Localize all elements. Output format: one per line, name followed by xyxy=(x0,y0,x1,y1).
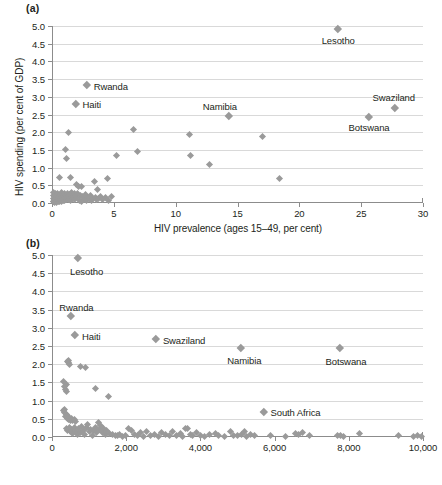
data-point-annotation: Swaziland xyxy=(163,335,205,346)
x-axis-tick-label: 5 xyxy=(111,208,116,219)
x-axis-tick-label: 30 xyxy=(418,208,428,219)
x-axis-tick-label: 10 xyxy=(170,208,180,219)
y-axis-tick-label: 4.0 xyxy=(32,286,45,297)
data-point-labeled xyxy=(391,104,399,112)
gridline xyxy=(52,44,423,45)
y-axis-tick-label: 1.5 xyxy=(32,377,45,388)
y-axis-tick-label: 4.0 xyxy=(32,56,45,67)
gridline xyxy=(52,97,423,98)
x-axis-tick xyxy=(361,203,362,207)
x-axis-tick-label: 0 xyxy=(49,442,54,453)
x-axis-tick-label: 4,000 xyxy=(189,442,212,453)
y-axis-tick-label: 2.0 xyxy=(32,359,45,370)
data-point xyxy=(221,433,228,440)
y-axis-tick-label: 5.0 xyxy=(32,21,45,32)
y-axis-tick-label: 5.0 xyxy=(32,250,45,261)
data-point-annotation: Botswana xyxy=(326,356,367,367)
gridline xyxy=(52,26,423,27)
x-axis-tick-label: 8,000 xyxy=(337,442,360,453)
data-point-annotation: Namibia xyxy=(227,355,261,366)
x-axis-tick xyxy=(275,437,276,441)
gridline xyxy=(52,419,423,420)
y-axis-tick-label: 1.5 xyxy=(32,144,45,155)
panel-b-plot-area: 0.00.51.01.52.02.53.03.54.04.55.002,0004… xyxy=(52,255,423,437)
figure: (a) HIV spending (per cent of GDP) HIV p… xyxy=(0,0,442,485)
gridline xyxy=(52,255,423,256)
data-point xyxy=(104,175,111,182)
data-point xyxy=(66,361,73,368)
data-point-annotation: Haiti xyxy=(82,99,101,110)
data-point-labeled xyxy=(83,81,91,89)
x-axis-tick xyxy=(423,203,424,207)
x-axis-tick-label: 10,000 xyxy=(409,442,437,453)
y-axis-tick-label: 2.0 xyxy=(32,127,45,138)
x-axis-tick-label: 25 xyxy=(356,208,366,219)
data-point-annotation: Rwanda xyxy=(59,302,93,313)
y-axis-tick-label: 0.0 xyxy=(32,198,45,209)
y-axis-tick-label: 2.5 xyxy=(32,109,45,120)
data-point xyxy=(63,388,70,395)
data-point-labeled xyxy=(237,343,245,351)
y-axis-tick-label: 3.5 xyxy=(32,304,45,315)
x-axis-tick-label: 6,000 xyxy=(263,442,286,453)
y-axis-tick-label: 3.0 xyxy=(32,322,45,333)
x-axis-tick xyxy=(176,203,177,207)
data-point xyxy=(134,148,141,155)
gridline xyxy=(52,61,423,62)
panel-a: (a) HIV spending (per cent of GDP) HIV p… xyxy=(0,0,442,243)
y-axis-tick-label: 3.5 xyxy=(32,74,45,85)
data-point-annotation: South Africa xyxy=(270,407,320,418)
gridline xyxy=(52,382,423,383)
data-point xyxy=(267,432,274,439)
y-axis-line xyxy=(52,26,53,203)
data-point-annotation: Rwanda xyxy=(94,81,128,92)
data-point xyxy=(113,152,120,159)
data-point xyxy=(306,432,313,439)
data-point xyxy=(62,146,69,153)
data-point xyxy=(94,186,101,193)
data-point xyxy=(251,432,258,439)
panel-a-plot-area: 0.00.51.01.52.02.53.03.54.04.55.00510152… xyxy=(52,26,423,203)
x-axis-tick-label: 2,000 xyxy=(115,442,138,453)
y-axis-tick-label: 1.0 xyxy=(32,395,45,406)
data-point-labeled xyxy=(72,100,80,108)
data-point xyxy=(282,433,289,440)
gridline xyxy=(52,401,423,402)
data-point xyxy=(259,133,266,140)
data-point-annotation: Swaziland xyxy=(373,92,415,103)
data-point xyxy=(65,129,72,136)
x-axis-tick-label: 15 xyxy=(232,208,242,219)
gridline xyxy=(52,310,423,311)
data-point xyxy=(56,174,63,181)
data-point-annotation: Lesotho xyxy=(70,266,103,277)
data-point-annotation: Lesotho xyxy=(322,35,355,46)
gridline xyxy=(52,185,423,186)
data-point-labeled xyxy=(71,331,79,339)
gridline xyxy=(52,328,423,329)
data-point xyxy=(276,175,283,182)
y-axis-tick-label: 4.5 xyxy=(32,268,45,279)
data-point xyxy=(92,385,99,392)
y-axis-tick-label: 0.5 xyxy=(32,413,45,424)
gridline xyxy=(52,273,423,274)
gridline xyxy=(52,168,423,169)
x-axis-tick-label: 0 xyxy=(49,208,54,219)
x-axis-tick-label: 20 xyxy=(294,208,304,219)
data-point xyxy=(206,161,213,168)
data-point xyxy=(67,174,74,181)
data-point-labeled xyxy=(260,408,268,416)
y-axis-tick-label: 0.0 xyxy=(32,432,45,443)
data-point xyxy=(187,152,194,159)
gridline xyxy=(52,150,423,151)
data-point-labeled xyxy=(225,112,233,120)
gridline xyxy=(52,291,423,292)
y-axis-tick-label: 0.5 xyxy=(32,180,45,191)
data-point-annotation: Namibia xyxy=(203,101,237,112)
data-point xyxy=(395,432,402,439)
panel-a-tag: (a) xyxy=(26,2,39,14)
x-axis-tick xyxy=(299,203,300,207)
data-point xyxy=(105,393,112,400)
data-point xyxy=(63,155,70,162)
data-point-annotation: Botswana xyxy=(349,122,390,133)
x-axis-tick xyxy=(238,203,239,207)
